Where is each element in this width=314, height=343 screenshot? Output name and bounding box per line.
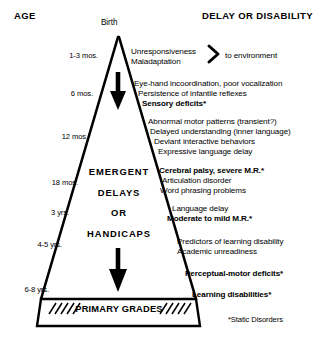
right-line-learning-disabilities: Learning disabilities* — [192, 291, 271, 299]
diagram-canvas: AGE DELAY OR DISABILITY Birth 1-3 mos. 6… — [0, 0, 314, 343]
right-line-academic-unreadiness: Academic unreadiness — [177, 248, 257, 256]
pyramid-word-delays: DELAYS — [98, 188, 141, 198]
arrow-down-lower — [109, 248, 127, 292]
age-label-1-3-mos: 1-3 mos. — [69, 52, 98, 60]
age-label-18-mos: 18 mos. — [52, 179, 78, 187]
right-line-unresponsiveness: Unresponsiveness — [131, 48, 196, 56]
pyramid-word-emergent: EMERGENT — [89, 167, 149, 177]
pyramid-word-or: OR — [111, 208, 127, 218]
right-line-perceptual-motor-deficits: Perceptual-motor deficits* — [185, 270, 283, 278]
right-line-delayed-understanding: Delayed understanding (inner language) — [150, 128, 291, 136]
age-label-3-yrs: 3 yrs. — [51, 209, 69, 217]
right-line-deviant-interactive-behaviors: Deviant interactive behaviors — [154, 138, 255, 146]
right-line-cerebral-palsy-severe-mr: Cerebral palsy, severe M.R.* — [159, 167, 264, 175]
right-line-moderate-to-mild-mr: Moderate to mild M.R.* — [167, 215, 252, 223]
right-line-predictors-of-learning-disability: Predictors of learning disability — [177, 238, 283, 246]
right-line-abnormal-motor-patterns: Abnormal motor patterns (transient?) — [148, 118, 277, 126]
right-line-to-environment: to environment — [225, 52, 277, 60]
right-line-maladaptation: Maladaptation — [131, 58, 181, 66]
header-delay-or-disability: DELAY OR DISABILITY — [202, 11, 313, 21]
arrow-down-upper — [110, 72, 126, 110]
age-label-4-5-yrs: 4-5 yrs. — [37, 241, 62, 249]
right-line-word-phrasing-problems: Word phrasing problems — [160, 187, 246, 195]
hatch-right — [160, 303, 191, 314]
age-label-12-mos: 12 mos. — [62, 133, 88, 141]
pyramid-word-handicaps: HANDICAPS — [87, 229, 151, 239]
age-label-6-8-yrs: 6-8 yrs. — [24, 286, 49, 294]
right-line-eye-hand-incoordination: Eye-hand incoordination, poor vocalizati… — [134, 80, 282, 88]
right-line-persistence-infantile-reflexes: Persistence of infantile reflexes — [138, 90, 247, 98]
footnote-static-disorders: *Static Disorders — [228, 316, 283, 324]
age-label-6-mos: 6 mos. — [71, 90, 93, 98]
right-line-sensory-deficits: Sensory deficits* — [142, 100, 206, 108]
primary-grades-label: PRIMARY GRADES — [75, 305, 163, 314]
right-line-language-delay: Language delay — [172, 205, 228, 213]
apex-label-birth: Birth — [101, 19, 117, 27]
right-line-articulation-disorder: Articulation disorder — [162, 177, 231, 185]
right-line-expressive-language-delay: Expressive language delay — [158, 148, 252, 156]
brace-chevron — [209, 46, 218, 62]
header-age: AGE — [14, 11, 36, 21]
